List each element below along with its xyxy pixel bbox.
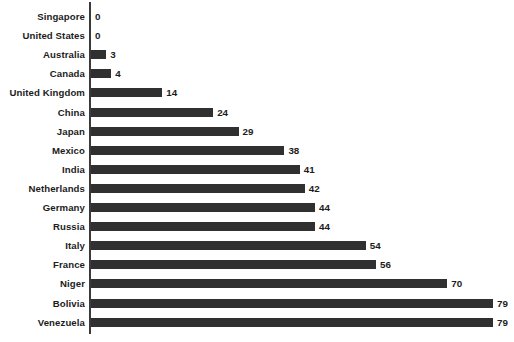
bar[interactable]	[91, 241, 366, 250]
category-label: Italy	[65, 236, 85, 255]
bar-value-label: 38	[288, 141, 299, 160]
bar-value-label: 14	[166, 83, 177, 102]
bar-value-label: 42	[309, 179, 320, 198]
category-label: China	[58, 103, 85, 122]
bar-row: Bolivia79	[0, 294, 514, 313]
bar[interactable]	[91, 260, 376, 269]
bar-value-label: 70	[451, 274, 462, 293]
bar-track	[91, 217, 315, 236]
bar-row: Singapore0	[0, 7, 514, 26]
category-label: Australia	[43, 45, 85, 64]
bar-value-label: 54	[370, 236, 381, 255]
bar-value-label: 79	[497, 294, 508, 313]
bar-track	[91, 7, 92, 26]
bar-row: Australia3	[0, 45, 514, 64]
bar-row: United States0	[0, 26, 514, 45]
category-label: Venezuela	[38, 313, 85, 332]
bar[interactable]	[91, 203, 315, 212]
bar[interactable]	[91, 88, 162, 97]
bar-value-label: 3	[110, 45, 115, 64]
bar-track	[91, 313, 493, 332]
bar-track	[91, 179, 305, 198]
bar[interactable]	[91, 50, 106, 59]
bar-track	[91, 122, 239, 141]
bar-row: Italy54	[0, 236, 514, 255]
bar-chart: Singapore0United States0Australia3Canada…	[0, 0, 514, 342]
bar-track	[91, 255, 376, 274]
bar-track	[91, 26, 92, 45]
bar[interactable]	[91, 318, 493, 327]
bar-value-label: 4	[115, 64, 120, 83]
bar-track	[91, 198, 315, 217]
bar[interactable]	[91, 127, 239, 136]
bar-track	[91, 103, 213, 122]
bar-row: China24	[0, 103, 514, 122]
bar[interactable]	[91, 222, 315, 231]
bar-value-label: 0	[95, 26, 100, 45]
bar-track	[91, 160, 300, 179]
bar[interactable]	[91, 165, 300, 174]
bar-track	[91, 64, 111, 83]
category-label: Japan	[57, 122, 85, 141]
bar-value-label: 44	[319, 198, 330, 217]
category-label: Niger	[60, 274, 85, 293]
bar[interactable]	[91, 184, 305, 193]
category-label: Canada	[50, 64, 85, 83]
category-label: Germany	[43, 198, 85, 217]
bar[interactable]	[91, 69, 111, 78]
category-label: Singapore	[37, 7, 85, 26]
bar-value-label: 0	[95, 7, 100, 26]
bar-row: Mexico38	[0, 141, 514, 160]
bar-track	[91, 294, 493, 313]
bar-row: Venezuela79	[0, 313, 514, 332]
bar-row: Russia44	[0, 217, 514, 236]
bar-row: United Kingdom14	[0, 83, 514, 102]
category-label: Mexico	[52, 141, 85, 160]
category-label: India	[62, 160, 85, 179]
category-label: Bolivia	[53, 294, 85, 313]
bar-row: France56	[0, 255, 514, 274]
bar-track	[91, 83, 162, 102]
bar-track	[91, 236, 366, 255]
bar-track	[91, 45, 106, 64]
bar-track	[91, 141, 284, 160]
category-label: United Kingdom	[10, 83, 85, 102]
bar-value-label: 29	[243, 122, 254, 141]
bar-value-label: 41	[304, 160, 315, 179]
bar-row: Japan29	[0, 122, 514, 141]
bar[interactable]	[91, 299, 493, 308]
bar-row: Germany44	[0, 198, 514, 217]
bar-value-label: 44	[319, 217, 330, 236]
bar-row: Netherlands42	[0, 179, 514, 198]
category-label: Russia	[53, 217, 85, 236]
bar-value-label: 79	[497, 313, 508, 332]
bar[interactable]	[91, 146, 284, 155]
bar-track	[91, 274, 447, 293]
category-label: Netherlands	[28, 179, 85, 198]
bar-value-label: 24	[217, 103, 228, 122]
category-label: France	[53, 255, 85, 274]
bar-row: India41	[0, 160, 514, 179]
category-label: United States	[22, 26, 85, 45]
bar-row: Canada4	[0, 64, 514, 83]
bar-row: Niger70	[0, 274, 514, 293]
bar-value-label: 56	[380, 255, 391, 274]
bar[interactable]	[91, 108, 213, 117]
bar[interactable]	[91, 279, 447, 288]
